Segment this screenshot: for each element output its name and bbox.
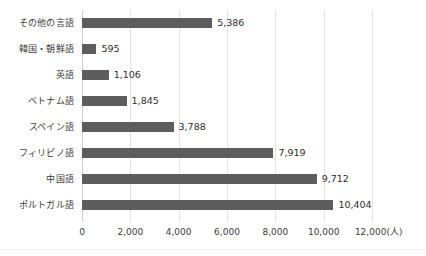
bar-value-label: 10,404 [338, 192, 371, 218]
bar-chart: その他の言語5,386韓国・朝鮮語595英語1,106ベトナム語1,845スペイ… [0, 0, 426, 256]
bar-row: ポルトガル語10,404 [0, 192, 426, 218]
bar [82, 148, 273, 158]
bar [82, 122, 174, 132]
category-label: 韓国・朝鮮語 [0, 36, 74, 62]
bar-row: 英語1,106 [0, 62, 426, 88]
axis-unit-label: (人) [386, 227, 402, 237]
bar-value-label: 1,845 [132, 88, 159, 114]
category-label: その他の言語 [0, 10, 74, 36]
x-tick-label-8000: 8,000 [262, 224, 288, 240]
bar [82, 200, 333, 210]
bar-row: フィリピノ語7,919 [0, 140, 426, 166]
x-axis-tick-labels: 02,0004,0006,0008,00010,00012,000(人) [0, 224, 426, 240]
category-label: フィリピノ語 [0, 140, 74, 166]
bar-row: その他の言語5,386 [0, 10, 426, 36]
category-label: ポルトガル語 [0, 192, 74, 218]
category-label: ベトナム語 [0, 88, 74, 114]
bar [82, 96, 127, 106]
bar-row: ベトナム語1,845 [0, 88, 426, 114]
bar [82, 18, 212, 28]
bar-value-label: 9,712 [322, 166, 349, 192]
bar-value-label: 7,919 [278, 140, 305, 166]
bar-value-label: 1,106 [114, 62, 141, 88]
x-tick-label-0: 0 [79, 224, 85, 240]
x-tick-label-12000: 12,000(人) [355, 224, 403, 240]
bar-row: 韓国・朝鮮語595 [0, 36, 426, 62]
frame-bottom-divider [0, 249, 426, 250]
bar [82, 44, 96, 54]
category-label: 中国語 [0, 166, 74, 192]
x-tick-label-2000: 2,000 [117, 224, 143, 240]
bar-rows: その他の言語5,386韓国・朝鮮語595英語1,106ベトナム語1,845スペイ… [0, 0, 426, 212]
bar-value-label: 3,788 [179, 114, 206, 140]
bar-row: 中国語9,712 [0, 166, 426, 192]
x-tick-label-10000: 10,000 [308, 224, 340, 240]
x-tick-label-4000: 4,000 [166, 224, 192, 240]
x-tick-label-6000: 6,000 [214, 224, 240, 240]
bar [82, 174, 317, 184]
category-label: 英語 [0, 62, 74, 88]
bar-value-label: 595 [101, 36, 119, 62]
category-label: スペイン語 [0, 114, 74, 140]
bar-value-label: 5,386 [217, 10, 244, 36]
bar [82, 70, 109, 80]
bar-row: スペイン語3,788 [0, 114, 426, 140]
